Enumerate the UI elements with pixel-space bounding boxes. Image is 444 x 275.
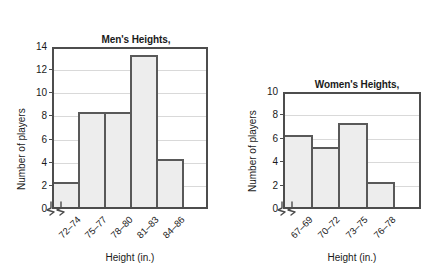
y-axis-tick-mark bbox=[49, 69, 53, 70]
y-axis-tick-label: 4 bbox=[256, 157, 278, 167]
axis-break-icon-mens bbox=[46, 200, 72, 216]
bar bbox=[130, 55, 158, 207]
y-axis-tick-label: 2 bbox=[256, 181, 278, 191]
bar bbox=[338, 123, 368, 207]
gridline bbox=[285, 115, 419, 116]
plot-area-mens bbox=[52, 47, 208, 209]
y-axis-tick-label: 6 bbox=[25, 135, 47, 145]
bar bbox=[366, 182, 396, 207]
y-axis-tick-label: 14 bbox=[25, 42, 47, 52]
y-axis-tick-mark bbox=[280, 185, 284, 186]
y-axis-tick-label: 8 bbox=[25, 111, 47, 121]
chart-title-line1: Women's Heights, bbox=[274, 79, 440, 91]
bar bbox=[311, 147, 341, 208]
y-axis-label-mens: Number of players bbox=[16, 108, 27, 190]
y-axis-tick-mark bbox=[280, 161, 284, 162]
y-axis-tick-mark bbox=[49, 162, 53, 163]
axis-break-icon-womens bbox=[277, 200, 303, 216]
chart-womens-heights: Women's Heights, National Basketball Tea… bbox=[222, 0, 444, 275]
x-axis-label-womens: Height (in.) bbox=[283, 252, 421, 263]
y-axis-tick-label: 6 bbox=[256, 134, 278, 144]
chart-title-line1: Men's Heights, bbox=[58, 34, 214, 46]
bar bbox=[283, 135, 313, 207]
y-axis-tick-label: 2 bbox=[25, 181, 47, 191]
y-axis-tick-label: 10 bbox=[25, 88, 47, 98]
y-axis-tick-mark bbox=[49, 115, 53, 116]
plot-area-womens bbox=[283, 92, 421, 209]
y-axis-tick-mark bbox=[49, 139, 53, 140]
y-axis-label-womens: Number of players bbox=[247, 110, 258, 192]
y-axis-tick-mark bbox=[49, 92, 53, 93]
y-axis-tick-label: 10 bbox=[256, 87, 278, 97]
bar bbox=[156, 159, 184, 207]
y-axis-tick-mark bbox=[280, 138, 284, 139]
y-axis-tick-label: 12 bbox=[25, 65, 47, 75]
y-axis-tick-label: 8 bbox=[256, 110, 278, 120]
bar bbox=[104, 112, 132, 207]
x-axis-label-mens: Height (in.) bbox=[52, 252, 208, 263]
y-axis-tick-mark bbox=[280, 114, 284, 115]
y-axis-tick-label: 4 bbox=[25, 158, 47, 168]
y-axis-tick-label: 0 bbox=[25, 204, 47, 214]
bar bbox=[78, 112, 106, 207]
y-axis-tick-mark bbox=[49, 185, 53, 186]
chart-mens-heights: Men's Heights, National Basketball Team … bbox=[0, 0, 222, 275]
y-axis-tick-label: 0 bbox=[256, 204, 278, 214]
